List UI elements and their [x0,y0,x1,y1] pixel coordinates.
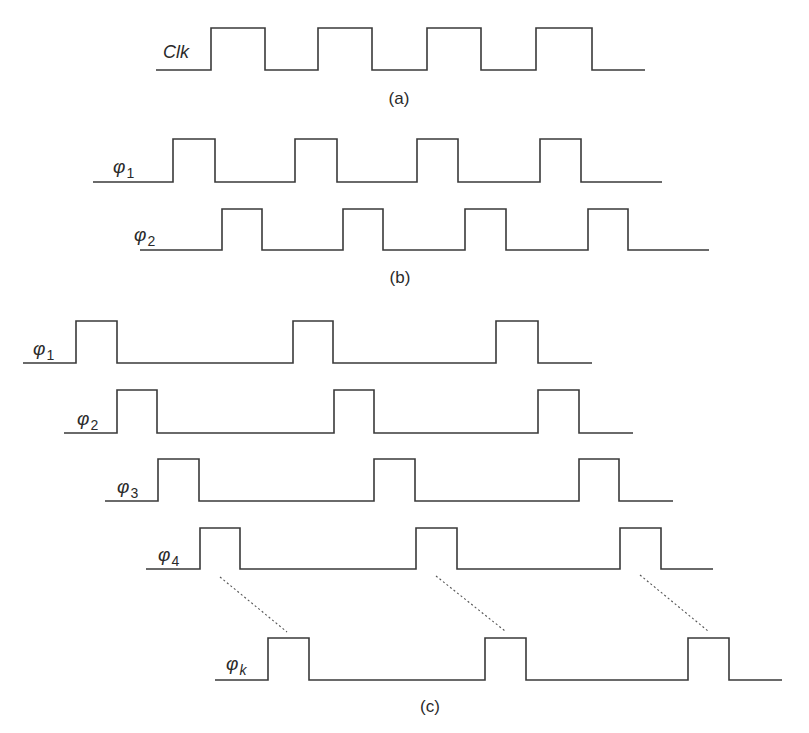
signal-label-phik: φk [226,653,247,678]
panel-c-k-phase-clock: φ1φ2φ3φ4φk(c) [23,321,782,716]
waveform-phi1 [93,139,662,182]
signal-label-subscript: 3 [130,485,138,501]
panel-label-a: (a) [389,89,410,108]
signal-label-subscript: 1 [126,165,134,181]
signal-label-subscript: 2 [90,417,98,433]
timing-diagram-svg: Clk(a) φ1φ2(b) φ1φ2φ3φ4φk(c) [0,0,809,733]
ellipsis-dotted-line [640,575,708,631]
ellipsis-dotted-line [220,577,287,632]
signal-Clk: Clk [156,28,645,70]
signal-label-phi1: φ1 [113,156,134,181]
panel-label-c: (c) [420,697,440,716]
signal-phi2: φ2 [134,209,709,250]
signal-phi4: φ4 [146,528,713,569]
signal-label-phi4: φ4 [158,544,179,569]
signal-label-phi3: φ3 [117,476,138,501]
waveform-phi1 [23,321,592,363]
panel-label-b: (b) [390,268,411,287]
ellipsis-dotted-line [436,576,505,631]
waveform-phi3 [105,459,673,501]
signal-label-phi1: φ1 [33,338,54,363]
waveform-phi2 [140,209,709,250]
panel-a-clock: Clk(a) [156,28,645,108]
signal-phi3: φ3 [105,459,673,501]
signal-label-subscript: 2 [147,233,155,249]
signal-label-phi2: φ2 [134,224,155,249]
waveform-Clk [156,28,645,70]
signal-label-subscript: k [239,662,247,678]
signal-phi1: φ1 [23,321,592,363]
timing-diagram-figure: Clk(a) φ1φ2(b) φ1φ2φ3φ4φk(c) [0,0,809,733]
waveform-phik [215,638,782,680]
signal-label-phi2: φ2 [77,408,98,433]
signal-label-subscript: 4 [171,553,179,569]
waveform-phi2 [64,390,633,433]
signal-phik: φk [215,638,782,680]
waveform-phi4 [146,528,713,569]
signal-label-Clk: Clk [163,42,190,62]
signal-phi2: φ2 [64,390,633,433]
signal-phi1: φ1 [93,139,662,182]
panel-b-two-phase-clock: φ1φ2(b) [93,139,709,287]
signal-label-subscript: 1 [46,347,54,363]
